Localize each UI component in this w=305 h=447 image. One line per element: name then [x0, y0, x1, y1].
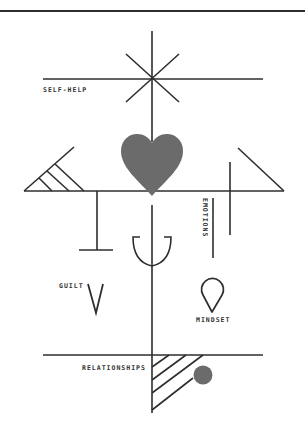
hatched-triangle-icon [24, 147, 84, 191]
v-shape-icon [88, 284, 103, 313]
label-self-help: SELF-HELP [43, 87, 87, 94]
label-emotions: EMOTIONS [202, 198, 209, 237]
diagram-svg [0, 0, 305, 447]
drop-icon [201, 278, 223, 312]
dot-icon [194, 366, 213, 385]
heart-icon [121, 134, 183, 196]
label-relationships: RELATIONSHIPS [82, 365, 146, 372]
label-guilt: GUILT [59, 283, 84, 290]
hatched-wedge-icon [152, 355, 203, 410]
symbol-diagram: SELF-HELP EMOTIONS GUILT MINDSET RELATIO… [0, 0, 305, 447]
trident-icon [133, 205, 171, 413]
t-bar-icon [79, 191, 113, 250]
label-mindset: MINDSET [196, 317, 230, 324]
right-triangle-icon [238, 148, 284, 191]
